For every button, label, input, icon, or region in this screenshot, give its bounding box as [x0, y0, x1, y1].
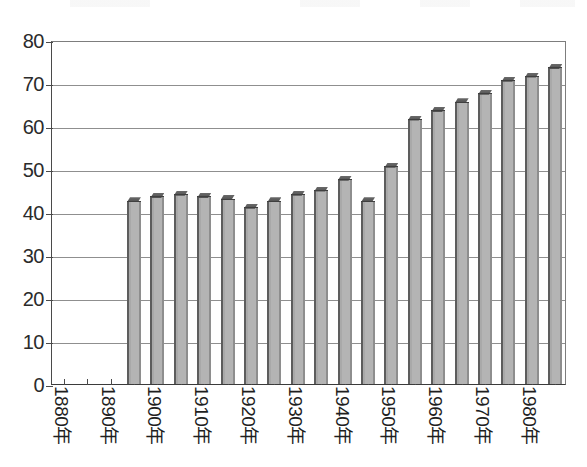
- y-tick-60: [46, 128, 53, 129]
- x-tick-1890: [111, 379, 112, 385]
- x-axis-label-1960: 1960年: [426, 386, 445, 445]
- bar-top-edge: [221, 199, 235, 200]
- bar-1910: [197, 197, 211, 384]
- x-axis-label-1880: 1880年: [51, 386, 70, 445]
- gridline-y-70: [52, 85, 565, 86]
- x-axis-label-1920: 1920年: [238, 386, 257, 445]
- bar-1940: [338, 180, 352, 384]
- y-axis-label-60: 60: [23, 117, 44, 137]
- bar-1930: [291, 195, 305, 384]
- x-axis-label-1890: 1890年: [98, 386, 117, 445]
- bar-top-edge: [150, 196, 164, 197]
- bar-chart: 01020304050607080 1880年1890年1900年1910年19…: [0, 0, 587, 467]
- bar-top-edge: [174, 194, 188, 195]
- x-axis-label-1950: 1950年: [379, 386, 398, 445]
- x-tick-1880: [64, 379, 65, 385]
- bar-1970: [478, 94, 492, 384]
- bar-top-edge: [548, 67, 562, 68]
- bar-1900: [150, 197, 164, 384]
- x-axis: 1880年1890年1900年1910年1920年1930年1940年1950年…: [0, 386, 587, 467]
- y-tick-50: [46, 171, 53, 172]
- x-axis-label-1980: 1980年: [519, 386, 538, 445]
- bar-top-edge: [338, 179, 352, 180]
- y-tick-20: [46, 300, 53, 301]
- y-tick-10: [46, 343, 53, 344]
- bar-1985: [548, 68, 562, 384]
- y-axis-label-50: 50: [23, 160, 44, 180]
- x-axis-label-1930: 1930年: [285, 386, 304, 445]
- y-axis-label-80: 80: [23, 31, 44, 51]
- bar-top-edge: [127, 201, 141, 202]
- bar-1975: [501, 81, 515, 384]
- bar-1920: [244, 208, 258, 384]
- bar-top-edge: [244, 207, 258, 208]
- bar-1945: [361, 201, 375, 384]
- bar-1955: [408, 120, 422, 384]
- bar-top-edge: [197, 196, 211, 197]
- y-axis-label-20: 20: [23, 289, 44, 309]
- y-tick-40: [46, 214, 53, 215]
- y-axis-label-70: 70: [23, 74, 44, 94]
- plot-area: [51, 41, 566, 385]
- y-axis-label-10: 10: [23, 332, 44, 352]
- gridline-y-80: [52, 42, 565, 43]
- bar-top-edge: [525, 76, 539, 77]
- bar-top-edge: [501, 80, 515, 81]
- x-tick-1885: [87, 379, 88, 385]
- x-axis-label-1910: 1910年: [192, 386, 211, 445]
- bar-1925: [267, 201, 281, 384]
- bar-1895: [127, 201, 141, 384]
- bar-top-edge: [384, 166, 398, 167]
- bar-top-edge: [291, 194, 305, 195]
- bar-top-edge: [478, 93, 492, 94]
- bar-top-edge: [408, 119, 422, 120]
- bar-1915: [221, 199, 235, 384]
- x-axis-label-1940: 1940年: [332, 386, 351, 445]
- bar-1935: [314, 191, 328, 385]
- bar-top-edge: [361, 201, 375, 202]
- bar-1960: [431, 111, 445, 384]
- cropped-caption-remnant: [0, 0, 587, 7]
- bar-top-edge: [455, 102, 469, 103]
- y-axis-label-30: 30: [23, 246, 44, 266]
- bar-top-edge: [267, 201, 281, 202]
- x-axis-label-1970: 1970年: [473, 386, 492, 445]
- y-axis-label-40: 40: [23, 203, 44, 223]
- bar-1965: [455, 102, 469, 384]
- bar-1980: [525, 77, 539, 384]
- x-axis-label-1900: 1900年: [145, 386, 164, 445]
- bar-top-edge: [431, 110, 445, 111]
- y-tick-30: [46, 257, 53, 258]
- y-tick-70: [46, 85, 53, 86]
- bar-1905: [174, 195, 188, 384]
- bar-1950: [384, 167, 398, 384]
- bar-top-edge: [314, 190, 328, 191]
- y-tick-80: [46, 42, 53, 43]
